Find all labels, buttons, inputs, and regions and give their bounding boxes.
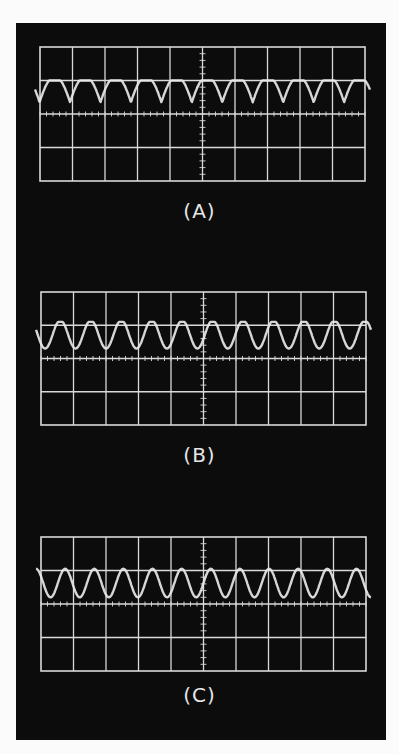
oscilloscope-plots (0, 0, 399, 754)
panel-label-a: (A) (0, 199, 399, 223)
panel-label-c: (C) (0, 683, 399, 707)
truncated-caption (0, 748, 399, 754)
panel-label-b: (B) (0, 443, 399, 467)
